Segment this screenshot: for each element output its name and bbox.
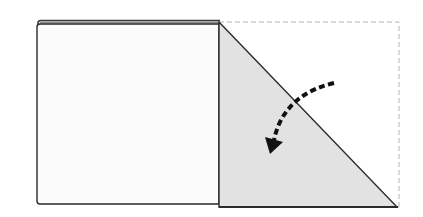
back-layer-gap <box>40 22 219 24</box>
diagram-svg <box>0 0 423 217</box>
folded-triangle <box>219 22 397 207</box>
left-square <box>37 24 219 204</box>
fold-diagram <box>0 0 423 217</box>
